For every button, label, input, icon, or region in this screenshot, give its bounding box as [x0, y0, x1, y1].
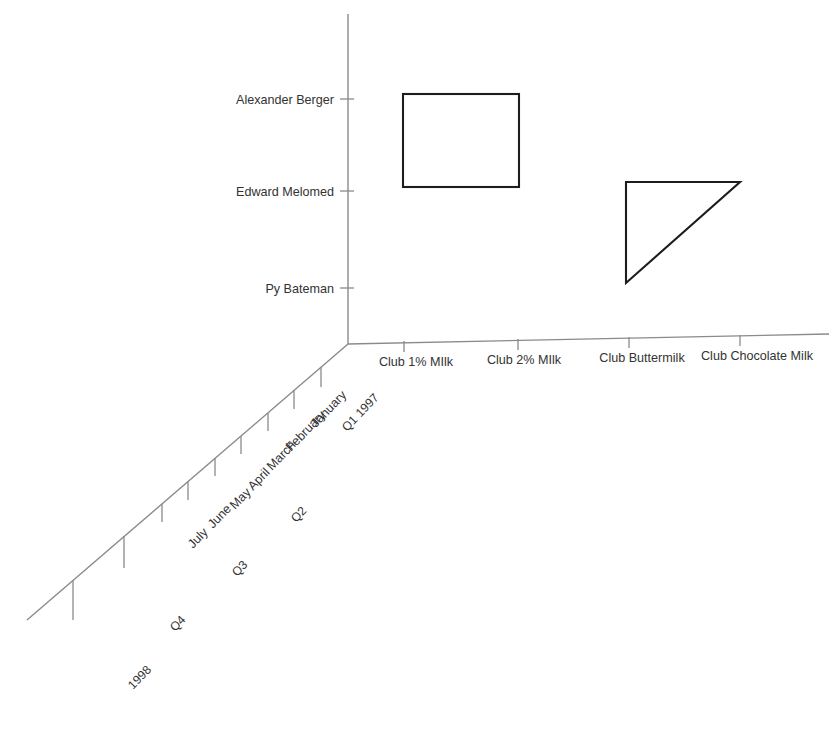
y-axis-label-py-bateman: Py Bateman — [265, 282, 334, 296]
x-axis-label-club-1-percent-milk: Club 1% MIlk — [379, 355, 454, 369]
three-dimensional-plot: Alexander Berger Edward Melomed Py Batem… — [0, 0, 840, 733]
z-axis-label-march: March — [264, 438, 298, 473]
chart-canvas: Alexander Berger Edward Melomed Py Batem… — [0, 0, 840, 733]
x-axis-label-club-buttermilk: Club Buttermilk — [599, 351, 685, 365]
z-axis-label-july: July — [185, 525, 211, 551]
x-axis-label-club-2-percent-milk: Club 2% MIlk — [487, 353, 562, 367]
y-axis-label-edward-melomed: Edward Melomed — [236, 185, 334, 199]
x-axis-label-club-chocolate-milk: Club Chocolate Milk — [701, 349, 814, 363]
x-axis-line — [348, 334, 829, 344]
y-axis-label-alexander-berger: Alexander Berger — [236, 93, 334, 107]
data-mark-triangle — [626, 182, 740, 283]
z-axis-label-april: April — [245, 465, 273, 493]
z-axis-group-label-1998: 1998 — [125, 663, 154, 692]
data-mark-rectangle — [403, 94, 519, 187]
z-axis-group-label-q3: Q3 — [229, 558, 251, 580]
z-axis-group-label-q4: Q4 — [167, 613, 189, 635]
z-axis-group-label-q2: Q2 — [288, 504, 310, 526]
